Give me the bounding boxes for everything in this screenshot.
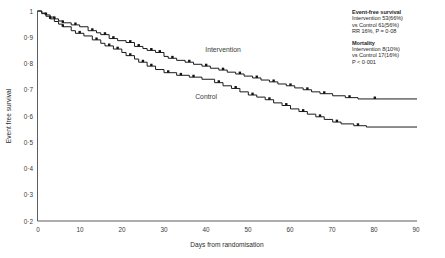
censor-mark [374, 97, 376, 99]
y-tick-label: 0·3 [24, 191, 34, 198]
y-tick-label: 0·6 [24, 113, 34, 120]
x-tick-label: 50 [244, 226, 252, 233]
mortality-block: Mortality Intervention 8(10%) vs Control… [352, 40, 445, 65]
censor-mark [306, 87, 308, 89]
censor-mark [108, 44, 110, 46]
x-tick-label: 60 [286, 226, 294, 233]
y-tick-label: 0·5 [24, 139, 34, 146]
censor-mark [239, 72, 241, 74]
censor-mark [285, 103, 287, 105]
y-tick-label: 1 [29, 8, 33, 15]
censor-mark [78, 31, 80, 33]
censor-mark [357, 123, 359, 125]
censor-mark [142, 60, 144, 62]
censor-marks-control [49, 16, 359, 125]
censor-mark [251, 93, 253, 95]
censor-mark [218, 80, 220, 82]
curve-label-intervention: Intervention [205, 46, 241, 53]
x-tick-label: 40 [202, 226, 210, 233]
x-tick-label: 80 [370, 226, 378, 233]
censor-mark [234, 86, 236, 88]
x-tick-label: 30 [160, 226, 168, 233]
censor-mark [256, 76, 258, 78]
censor-mark [74, 23, 76, 25]
censor-mark [319, 114, 321, 116]
censor-mark [336, 120, 338, 122]
censor-mark [129, 40, 131, 42]
y-axis-title: Event free survival [5, 88, 12, 143]
censor-mark [95, 37, 97, 39]
censor-mark [91, 28, 93, 30]
y-tick-label: 0·9 [24, 34, 34, 41]
censor-mark [171, 56, 173, 58]
censor-mark [159, 50, 161, 52]
y-tick-label: 0·8 [24, 60, 34, 67]
y-tick-label: 0·2 [24, 218, 34, 225]
censor-mark [180, 73, 182, 75]
y-axis-group: 1 0·9 0·8 0·7 0·6 0·5 0·4 0·3 0·2 Event … [5, 8, 38, 225]
censor-mark [150, 64, 152, 66]
y-tick-label: 0·7 [24, 86, 34, 93]
censor-mark [49, 16, 51, 18]
censor-mark [302, 109, 304, 111]
statistics-annotations: Event-free survival Intervention 53(66%)… [352, 9, 445, 70]
censor-mark [348, 95, 350, 97]
x-tick-label: 90 [412, 226, 420, 233]
mortality-statistics: P < 0·001 [352, 59, 445, 65]
x-tick-label: 0 [36, 226, 40, 233]
event-free-statistics: RR 16%, P = 0·08 [352, 28, 445, 34]
censor-mark [205, 64, 207, 66]
censor-mark [104, 32, 106, 34]
censor-mark [268, 97, 270, 99]
censor-mark [150, 48, 152, 50]
y-tick-label: 0·4 [24, 165, 34, 172]
censor-mark [272, 79, 274, 81]
x-tick-label: 20 [118, 226, 126, 233]
censor-mark [62, 24, 64, 26]
event-free-survival-block: Event-free survival Intervention 53(66%)… [352, 9, 445, 34]
censor-mark [167, 70, 169, 72]
censor-mark [112, 36, 114, 38]
kaplan-meier-figure: 1 0·9 0·8 0·7 0·6 0·5 0·4 0·3 0·2 Event … [0, 0, 445, 258]
x-axis-title: Days from randomisation [190, 241, 264, 249]
curve-labels: Intervention Control [195, 46, 241, 100]
censor-marks-intervention [45, 13, 376, 99]
censor-mark [222, 68, 224, 70]
x-tick-label: 10 [76, 226, 84, 233]
curve-label-control: Control [195, 93, 217, 100]
x-axis-group: 0 10 20 30 40 50 60 70 80 90 Days from r… [36, 221, 420, 249]
censor-mark [138, 44, 140, 46]
censor-mark [192, 75, 194, 77]
censor-mark [129, 53, 131, 55]
x-tick-label: 70 [328, 226, 336, 233]
censor-mark [62, 20, 64, 22]
censor-mark [188, 60, 190, 62]
censor-mark [323, 91, 325, 93]
censor-mark [116, 47, 118, 49]
censor-mark [289, 83, 291, 85]
